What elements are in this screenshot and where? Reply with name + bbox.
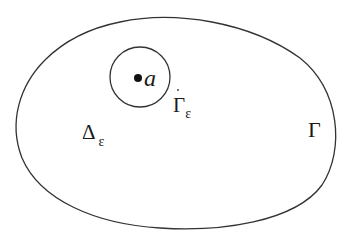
region-label: Δε (82, 122, 101, 143)
point-label-a: a (144, 66, 156, 90)
point-dot (134, 74, 142, 82)
inner-circle-label: Γε (173, 95, 191, 116)
region-label-main: Δ (82, 120, 96, 144)
diagram-canvas (0, 0, 354, 238)
inner-circle-label-main: Γ (173, 93, 185, 117)
tick-dot (177, 89, 179, 91)
inner-circle-label-sub: ε (185, 106, 191, 121)
outer-boundary-curve (16, 18, 336, 229)
outer-curve-label: Γ (308, 119, 321, 141)
region-label-sub: ε (99, 134, 105, 149)
